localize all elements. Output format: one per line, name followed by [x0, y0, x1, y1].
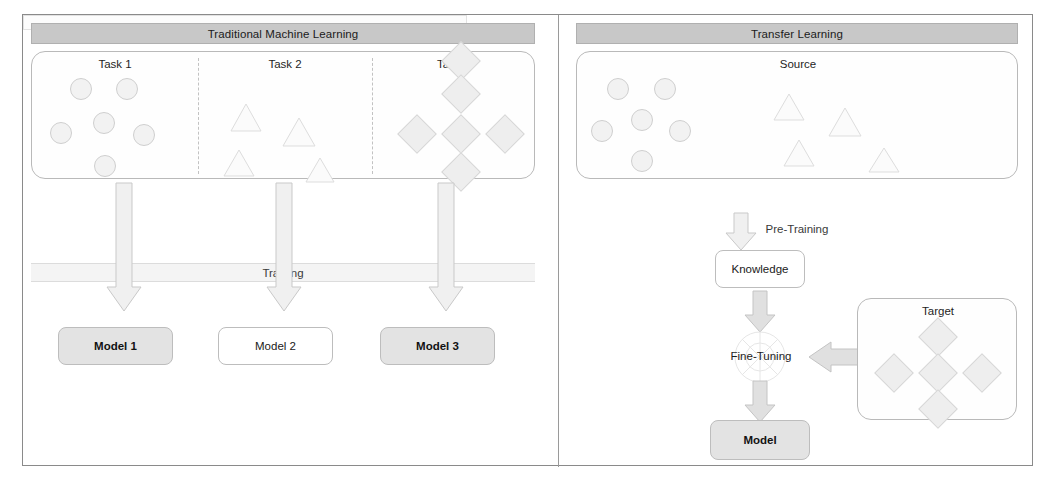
task-1-shape: [133, 124, 155, 146]
model-2-box[interactable]: Model 2: [218, 327, 333, 365]
task-1-shape: [94, 155, 116, 177]
arrow-finetuning-to-model: [740, 381, 780, 423]
task-2-shapes: [198, 74, 372, 180]
training-arrows: [31, 183, 535, 319]
task-3-shape: [397, 114, 437, 154]
target-diamond: [874, 353, 914, 393]
task-1-shape: [50, 122, 72, 144]
panel-divider: [558, 15, 559, 467]
source-triangles: [757, 72, 1017, 180]
task-1-label: Task 1: [32, 58, 198, 70]
task-3-shape: [441, 74, 481, 114]
target-container: Target: [857, 298, 1017, 420]
figure-frame: Traditional Machine Learning Task 1 Task…: [22, 14, 1033, 466]
source-circle: [631, 150, 653, 172]
target-diamond: [918, 353, 958, 393]
task-2-label: Task 2: [198, 58, 372, 70]
target-label: Target: [858, 305, 1018, 317]
knowledge-box[interactable]: Knowledge: [715, 250, 805, 288]
source-circle: [591, 120, 613, 142]
task-1-shape: [93, 112, 115, 134]
fine-tuning-label: Fine-Tuning: [706, 347, 816, 365]
source-circle: [631, 109, 653, 131]
transfer-model-box[interactable]: Model: [710, 420, 810, 460]
source-circle: [607, 78, 629, 100]
task-1-shape: [70, 78, 92, 100]
model-3-box[interactable]: Model 3: [380, 327, 495, 365]
source-circle: [654, 78, 676, 100]
target-diamond: [918, 389, 958, 429]
panel-title-transfer: Transfer Learning: [576, 23, 1018, 44]
arrow-source-to-knowledge: [721, 213, 761, 251]
pre-training-label: Pre-Training: [576, 220, 1018, 238]
figure-root: Traditional Machine Learning Task 1 Task…: [0, 0, 1055, 481]
task-3-shape: [441, 114, 481, 154]
model-1-box[interactable]: Model 1: [58, 327, 173, 365]
source-label: Source: [577, 58, 1019, 70]
source-circle: [669, 120, 691, 142]
task-1-shape: [116, 78, 138, 100]
tasks-container: Task 1 Task 2 Task 3: [31, 51, 535, 179]
target-diamond: [918, 317, 958, 357]
task-3-shape: [485, 114, 525, 154]
target-diamond: [962, 353, 1002, 393]
task-divider-2: [372, 58, 373, 174]
source-container: Source: [576, 51, 1018, 179]
